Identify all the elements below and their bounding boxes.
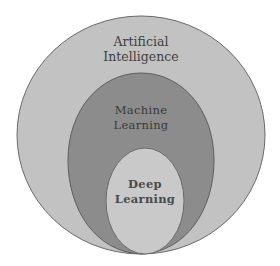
deep-learning-label: Deep Learning <box>95 177 195 207</box>
artificial-intelligence-label: Artificial Intelligence <box>91 34 191 64</box>
ml-label-line2: Learning <box>91 118 191 133</box>
ml-label-line1: Machine <box>91 103 191 118</box>
dl-label-line1: Deep <box>95 177 195 192</box>
machine-learning-label: Machine Learning <box>91 103 191 133</box>
ai-label-line2: Intelligence <box>91 49 191 64</box>
dl-label-line2: Learning <box>95 192 195 207</box>
ai-label-line1: Artificial <box>91 34 191 49</box>
